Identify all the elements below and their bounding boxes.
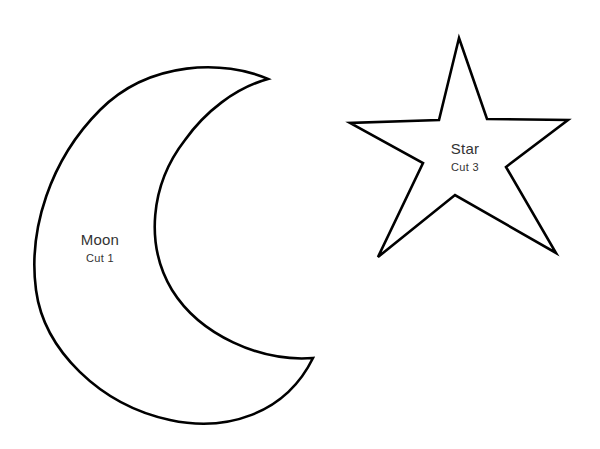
star-name: Star (451, 140, 479, 158)
moon-name: Moon (81, 231, 119, 249)
shapes-drawing (0, 0, 600, 449)
moon-outline (34, 67, 313, 423)
star-label: Star Cut 3 (451, 140, 479, 174)
template-sheet: Moon Cut 1 Star Cut 3 (0, 0, 600, 449)
moon-cut-count: Cut 1 (81, 251, 119, 265)
star-cut-count: Cut 3 (451, 160, 479, 174)
moon-label: Moon Cut 1 (81, 231, 119, 265)
